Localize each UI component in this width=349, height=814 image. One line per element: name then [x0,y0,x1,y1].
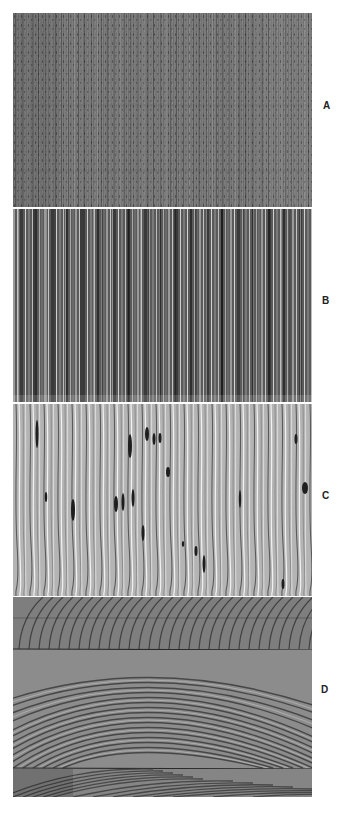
panel-b-image [13,209,312,402]
panel-label-b: B [322,296,329,306]
upper-band [13,597,312,649]
panel-a-image [13,13,312,207]
panel-label-a: A [323,101,330,111]
seam-line [13,649,312,650]
panel-d-image [13,597,312,797]
panel-label-d: D [321,685,328,695]
panel-a-texture [13,13,312,207]
panel-b-texture [13,209,312,402]
panel-label-c: C [322,491,329,501]
figure [13,13,312,797]
panel-c-image [13,404,312,596]
panel-d-texture [13,597,312,797]
panel-c-texture [13,404,312,596]
lower-band [13,769,312,797]
middle-band [13,650,312,768]
